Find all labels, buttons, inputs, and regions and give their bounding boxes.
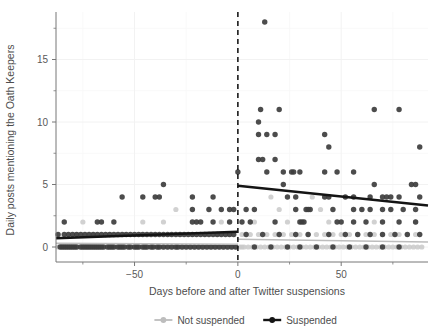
data-point [277, 232, 282, 237]
data-point [367, 232, 372, 237]
data-point [190, 207, 195, 212]
data-point [330, 207, 335, 212]
data-point [111, 219, 116, 224]
data-point [388, 207, 393, 212]
data-point [140, 219, 145, 224]
data-point [281, 169, 286, 174]
data-point [285, 244, 290, 249]
data-point [268, 244, 273, 249]
data-point [293, 207, 298, 212]
data-point [413, 207, 418, 212]
data-point [293, 232, 298, 237]
data-point [305, 232, 310, 237]
data-point [297, 244, 302, 249]
data-point [401, 207, 406, 212]
data-point [318, 207, 323, 212]
data-point [380, 219, 385, 224]
data-point [157, 194, 162, 199]
data-point [256, 119, 261, 124]
data-point [372, 107, 377, 112]
data-point [417, 194, 422, 199]
data-point [372, 219, 377, 224]
data-point [291, 169, 296, 174]
legend-point-marker [269, 317, 275, 323]
data-point [140, 194, 145, 199]
data-point [277, 207, 282, 212]
y-tick-label: 0 [42, 242, 48, 253]
legend-label: Suspended [286, 315, 337, 326]
data-point [396, 219, 401, 224]
data-point [272, 132, 277, 137]
data-point [322, 169, 327, 174]
data-point [392, 232, 397, 237]
data-point [99, 219, 104, 224]
data-point [380, 232, 385, 237]
data-point [256, 132, 261, 137]
data-point [161, 219, 166, 224]
data-point [260, 232, 265, 237]
data-point [417, 232, 422, 237]
data-point [268, 194, 273, 199]
y-tick-label: 15 [37, 54, 49, 65]
data-point [210, 194, 215, 199]
data-point [161, 182, 166, 187]
data-point [326, 144, 331, 149]
x-tick-label: 50 [336, 269, 348, 280]
data-point [372, 182, 377, 187]
data-point [419, 244, 424, 249]
data-point [363, 244, 368, 249]
data-point [281, 182, 286, 187]
data-point [310, 194, 315, 199]
data-point [367, 207, 372, 212]
data-point [347, 244, 352, 249]
data-point [314, 244, 319, 249]
data-point [62, 219, 67, 224]
data-point [285, 219, 290, 224]
data-point [252, 244, 257, 249]
data-point [210, 219, 215, 224]
data-point [405, 232, 410, 237]
data-point [343, 232, 348, 237]
data-point [308, 207, 313, 212]
y-tick-label: 5 [42, 179, 48, 190]
data-point [359, 207, 364, 212]
data-point [413, 219, 418, 224]
data-point [243, 207, 248, 212]
data-point [235, 169, 240, 174]
chart-figure: −50050 051015 Days before and after Twit… [0, 0, 435, 336]
data-point [264, 169, 269, 174]
data-point [190, 194, 195, 199]
data-point [297, 169, 302, 174]
data-point [252, 207, 257, 212]
data-point [258, 107, 263, 112]
data-point [264, 132, 269, 137]
data-point [326, 232, 331, 237]
data-point [198, 219, 203, 224]
data-point [301, 219, 306, 224]
data-point [351, 219, 356, 224]
data-point [80, 219, 85, 224]
legend-label: Not suspended [177, 315, 244, 326]
data-point [227, 219, 232, 224]
x-axis-title: Days before and after Twitter suspension… [149, 285, 345, 297]
y-axis-title: Daily posts mentioning the Oath Keepers [4, 45, 16, 236]
data-point [396, 194, 401, 199]
data-point [231, 207, 236, 212]
data-point [314, 232, 319, 237]
data-point [173, 207, 178, 212]
data-point [388, 194, 393, 199]
data-point [219, 219, 224, 224]
y-tick-label: 10 [37, 117, 49, 128]
data-point [293, 194, 298, 199]
data-point [119, 194, 124, 199]
data-point [417, 144, 422, 149]
x-tick-label: 0 [235, 269, 241, 280]
data-point [243, 232, 248, 237]
data-point [413, 182, 418, 187]
data-point [260, 157, 265, 162]
data-point [396, 244, 401, 249]
data-point [219, 207, 224, 212]
data-point [351, 207, 356, 212]
data-point [330, 244, 335, 249]
data-point [262, 19, 267, 24]
